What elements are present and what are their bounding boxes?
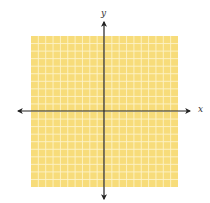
y-axis-label: y xyxy=(101,9,106,18)
coordinate-plane xyxy=(0,0,210,203)
x-axis-label: x xyxy=(198,105,203,114)
